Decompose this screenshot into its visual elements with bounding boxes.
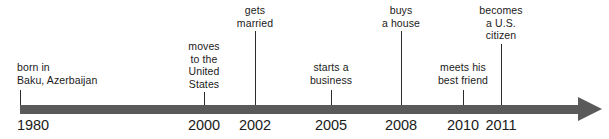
event-label-2010: meets his best friend: [438, 61, 488, 86]
tick-mark-1980: [20, 90, 21, 105]
tick-mark-2010: [463, 90, 464, 105]
timeline-axis-bar: [20, 105, 585, 114]
year-label-1980: 1980: [17, 117, 49, 134]
timeline-figure: born in Baku, Azerbaijan moves to the Un…: [0, 0, 609, 139]
event-label-2000: moves to the United States: [188, 40, 219, 90]
event-label-2002: gets married: [237, 4, 273, 29]
year-label-2008: 2008: [385, 117, 417, 134]
event-label-1980: born in Baku, Azerbaijan: [17, 61, 97, 86]
year-label-2010: 2010: [447, 117, 479, 134]
tick-mark-2005: [331, 90, 332, 105]
tick-mark-2000: [204, 92, 205, 105]
year-label-2002: 2002: [239, 117, 271, 134]
event-label-2008: buys a house: [382, 4, 420, 29]
tick-mark-2011: [501, 44, 502, 105]
tick-mark-2008: [401, 31, 402, 105]
year-label-2000: 2000: [188, 117, 220, 134]
event-label-2005: starts a business: [310, 61, 352, 86]
event-label-2011: becomes a U.S. citizen: [479, 4, 522, 42]
year-label-2011: 2011: [486, 117, 517, 134]
timeline-arrow-icon: [578, 97, 602, 121]
year-label-2005: 2005: [315, 117, 347, 134]
tick-mark-2002: [255, 31, 256, 105]
